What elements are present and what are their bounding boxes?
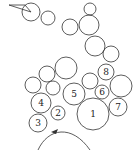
circle-c-mid-g [103, 46, 119, 62]
circle-label: 3 [35, 118, 41, 128]
circle-c-upper-left [39, 66, 55, 82]
circle-label: 8 [103, 67, 109, 77]
rotation-arc [38, 132, 90, 150]
circle-c-far-left [25, 77, 41, 93]
circle-c-near-8 [82, 73, 98, 89]
circle-label: 2 [55, 108, 61, 118]
circles-group: 85642173 [22, 3, 132, 132]
circle-c-top-d [84, 3, 96, 15]
circle-label: 6 [99, 87, 105, 97]
triangle-shape [9, 5, 31, 12]
circle-label: 1 [90, 109, 96, 119]
circle-c-small-mid [46, 81, 60, 95]
circle-label: 7 [115, 102, 121, 112]
circle-c-upper-mid [55, 57, 77, 79]
circle-c-top-c [62, 19, 78, 35]
circle-label: 5 [71, 89, 77, 99]
circle-c-top-e [79, 15, 99, 35]
circle-c-big-right [110, 75, 132, 97]
circle-c-top-b [41, 11, 55, 25]
circle-c-mid-f [85, 36, 105, 56]
circle-label: 4 [38, 98, 44, 108]
circle-packing-svg: 85642173 [0, 0, 140, 152]
circle-diagram: 85642173 [0, 0, 140, 152]
arrowhead-icon [51, 129, 58, 134]
